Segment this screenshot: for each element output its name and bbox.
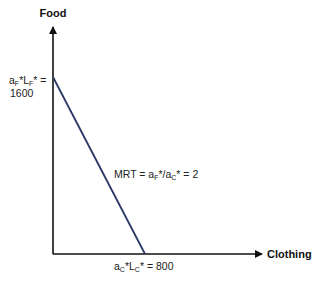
slope-label: MRT = aF*/aC* = 2 — [114, 168, 198, 181]
ppf-line — [53, 77, 145, 254]
x-intercept-label: aC*LC* = 800 — [114, 260, 174, 273]
x-axis-title: Clothing — [267, 248, 312, 260]
ppf-chart: Food Clothing aF*LF* = 1600 MRT = aF*/aC… — [0, 0, 321, 283]
y-axis-title: Food — [40, 7, 67, 19]
y-intercept-value: 1600 — [10, 87, 34, 99]
y-intercept-label: aF*LF* = — [9, 74, 46, 87]
